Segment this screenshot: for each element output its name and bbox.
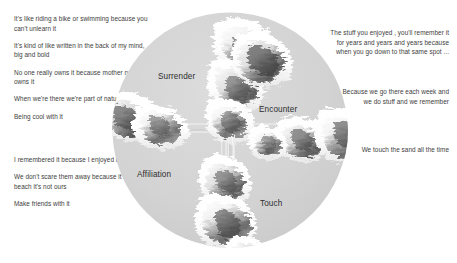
quadrant-circle: Surrender Encounter Affiliation Touch (112, 12, 348, 248)
diagram-canvas: It's like riding a bike or swimming beca… (0, 0, 457, 263)
quote-text: Because we go there each week and we do … (339, 87, 449, 106)
quadrant-label-encounter: Encounter (259, 105, 297, 114)
quote-group-low-right: We touch the sand all the time (359, 145, 449, 155)
quadrant-label-touch: Touch (260, 199, 282, 208)
quote-text: We touch the sand all the time (359, 145, 449, 155)
quadrant-label-surrender: Surrender (158, 72, 195, 81)
circle-graphic (112, 12, 348, 248)
quote-group-mid-right: Because we go there each week and we do … (339, 87, 449, 106)
quadrant-label-affiliation: Affiliation (137, 170, 171, 179)
